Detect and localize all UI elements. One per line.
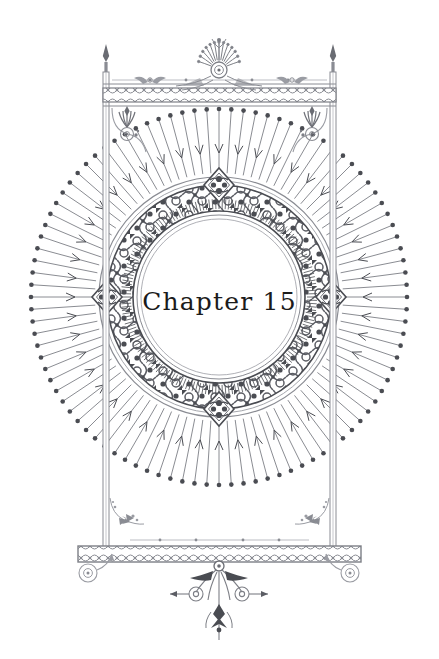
decorative-ornament-artwork: [0, 0, 439, 659]
chapter-title: Chapter 15: [0, 287, 439, 316]
frame-bottom-band: [78, 546, 361, 562]
chapter-title-page: Chapter 15: [0, 0, 439, 659]
